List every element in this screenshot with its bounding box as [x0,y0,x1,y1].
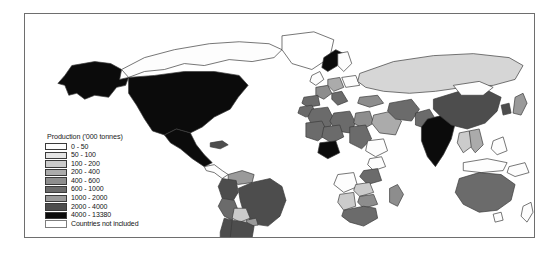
figure-container: .c{stroke:#3b3b3b;stroke-width:0.7;strok… [0,0,559,253]
legend-rows: 0 - 5050 - 100100 - 200200 - 400400 - 60… [45,143,169,229]
legend-label: 50 - 100 [71,151,96,160]
legend-swatch [45,143,67,150]
legend-label: 0 - 50 [71,143,88,152]
legend-row: 0 - 50 [45,143,169,152]
legend-row: 4000 - 13380 [45,211,169,220]
legend-row: 400 - 600 [45,177,169,186]
legend-label: 100 - 200 [71,160,100,169]
legend-label: 400 - 600 [71,177,100,186]
legend-swatch [45,169,67,176]
legend-swatch [45,203,67,210]
world-map-frame: .c{stroke:#3b3b3b;stroke-width:0.7;strok… [24,13,535,238]
legend-swatch [45,186,67,193]
legend-row: 2000 - 4000 [45,203,169,212]
legend-row: Countries not included [45,220,169,229]
region-korea [501,103,511,115]
legend-row: 200 - 400 [45,168,169,177]
legend-swatch [45,177,67,184]
legend-row: 1000 - 2000 [45,194,169,203]
region-tasmania [493,212,503,222]
legend-label: 600 - 1000 [71,185,103,194]
legend-label: Countries not included [71,220,138,229]
legend-row: 50 - 100 [45,151,169,160]
legend-swatch [45,220,67,227]
legend-row: 100 - 200 [45,160,169,169]
legend-swatch [45,160,67,167]
legend-label: 1000 - 2000 [71,194,107,203]
legend-swatch [45,152,67,159]
legend-title: Production ('000 tonnes) [47,132,169,141]
legend-label: 4000 - 13380 [71,211,111,220]
legend-row: 600 - 1000 [45,185,169,194]
map-legend: Production ('000 tonnes) 0 - 5050 - 1001… [45,132,169,228]
legend-label: 2000 - 4000 [71,203,107,212]
legend-label: 200 - 400 [71,168,100,177]
legend-swatch [45,195,67,202]
legend-swatch [45,212,67,219]
